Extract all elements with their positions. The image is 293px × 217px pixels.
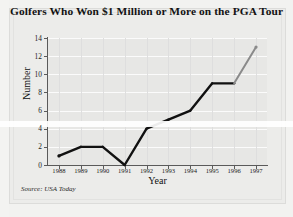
y-axis-tick-label: 8: [26, 88, 42, 97]
y-axis-tick-label: 0: [26, 161, 42, 170]
scan-artifact-band: [0, 121, 293, 127]
y-axis-tick: [44, 56, 47, 57]
gridline-vertical: [190, 38, 191, 165]
y-axis-tick-label: 12: [26, 52, 42, 61]
y-axis-tick: [44, 129, 47, 130]
y-axis-tick: [44, 111, 47, 112]
gridline-vertical: [59, 38, 60, 165]
x-axis-title: Year: [48, 175, 267, 186]
plot-area: [48, 38, 267, 165]
y-axis-tick: [44, 92, 47, 93]
chart-title: Golfers Who Won $1 Million or More on th…: [10, 5, 268, 17]
gridline-vertical: [234, 38, 235, 165]
y-axis-tick: [44, 147, 47, 148]
gridline-vertical: [125, 38, 126, 165]
y-axis-tick: [44, 38, 47, 39]
y-axis-tick-label: 2: [26, 142, 42, 151]
gridline-vertical: [81, 38, 82, 165]
source-note: Source: USA Today: [21, 185, 76, 193]
x-axis-tick-label: 1997: [243, 167, 269, 174]
y-axis-tick: [44, 165, 47, 166]
y-axis-line: [47, 37, 48, 166]
y-axis-tick-label: 6: [26, 106, 42, 115]
gridline-vertical: [147, 38, 148, 165]
chart-image: Golfers Who Won $1 Million or More on th…: [0, 0, 293, 217]
y-axis-tick-label: 4: [26, 124, 42, 133]
gridline-vertical: [256, 38, 257, 165]
y-axis-tick-label: 14: [26, 34, 42, 43]
y-axis-tick-label: 10: [26, 70, 42, 79]
gridline-vertical: [103, 38, 104, 165]
gridline-vertical: [212, 38, 213, 165]
y-axis-tick: [44, 74, 47, 75]
gridline-vertical: [168, 38, 169, 165]
page-left-margin: [0, 0, 9, 217]
